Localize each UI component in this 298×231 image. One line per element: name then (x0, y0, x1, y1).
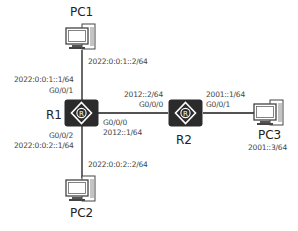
pc2-pc-icon[interactable] (64, 175, 98, 203)
pc1-ip: 2022:0:0:1::2/64 (88, 57, 148, 66)
pc2-ip: 2022:0:0:2::2/64 (88, 160, 148, 169)
pc1-label: PC1 (70, 6, 93, 19)
svg-text:R: R (183, 110, 188, 118)
svg-text:R: R (79, 110, 84, 118)
r2-router-icon[interactable]: R (168, 99, 203, 127)
pc3-ip: 2001::3/64 (248, 143, 287, 152)
r1-g002-ip: 2022:0:0:2::1/64 (14, 141, 74, 150)
pc2-label: PC2 (70, 207, 93, 220)
pc3-label: PC3 (258, 129, 281, 142)
r1-router-icon[interactable]: R (64, 99, 99, 127)
r2-label: R2 (176, 134, 192, 147)
r1-g001-ip: 2022:0:0:1::1/64 (14, 75, 74, 84)
r1-g000-ip: 2012::1/64 (103, 128, 142, 137)
r2-g001-ip: 2001::1/64 (206, 90, 245, 99)
r1-g001-port: G0/0/1 (49, 86, 73, 95)
r2-g000-port: G0/0/0 (139, 100, 163, 109)
r2-g001-port: G0/0/1 (206, 100, 230, 109)
r1-g002-port: G0/0/2 (49, 131, 73, 140)
pc3-pc-icon[interactable] (252, 99, 286, 127)
r2-g000-ip: 2012::2/64 (124, 90, 163, 99)
r1-label: R1 (46, 109, 62, 122)
pc1-pc-icon[interactable] (64, 23, 98, 51)
r1-g000-port: G0/0/0 (103, 118, 127, 127)
